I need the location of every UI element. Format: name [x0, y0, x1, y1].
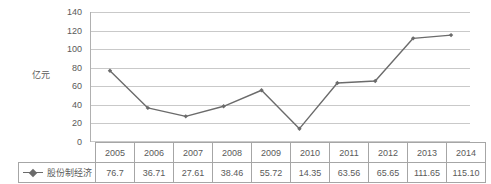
y-axis-tick-60: 60: [72, 82, 82, 91]
table-header-cell-2014: 2014: [447, 143, 486, 163]
table-header-cell-2009: 2009: [252, 143, 291, 163]
plot-area: [90, 12, 470, 142]
series-path: [110, 35, 451, 129]
y-axis-tick-40: 40: [72, 100, 82, 109]
table-value-cell-2009: 55.72: [252, 163, 291, 183]
table-value-cell-2008: 38.46: [213, 163, 252, 183]
table-corner-cell: [19, 143, 96, 163]
table-row: 股份制经济 76.736.7127.6138.4655.7214.3563.56…: [19, 163, 486, 183]
y-axis-tick-80: 80: [72, 63, 82, 72]
table-header-cell-2008: 2008: [213, 143, 252, 163]
y-axis-tick-labels: 140120100806040200: [52, 12, 86, 142]
series-line-股份制经济: [91, 12, 470, 142]
data-point-2008: [221, 104, 225, 108]
table-value-cell-2011: 63.56: [330, 163, 369, 183]
y-axis-tick-20: 20: [72, 119, 82, 128]
series-legend-label: 股份制经济: [47, 166, 92, 179]
line-marker-icon: [23, 168, 43, 177]
table-header-cell-2013: 2013: [408, 143, 447, 163]
y-axis-tick-100: 100: [67, 45, 82, 54]
y-axis-tick-120: 120: [67, 26, 82, 35]
table-header-cell-2006: 2006: [135, 143, 174, 163]
y-axis-tick-140: 140: [67, 8, 82, 17]
table-value-cell-2013: 111.65: [408, 163, 447, 183]
table-header-row: 2005200620072008200920102011201220132014: [19, 143, 486, 163]
data-point-2007: [184, 114, 188, 118]
table-value-cell-2012: 65.65: [369, 163, 408, 183]
table-header-cell-2012: 2012: [369, 143, 408, 163]
table-value-cell-2006: 36.71: [135, 163, 174, 183]
table-value-cell-2005: 76.7: [96, 163, 135, 183]
table-header-cell-2011: 2011: [330, 143, 369, 163]
data-point-2014: [449, 33, 453, 37]
table-header-cell-2010: 2010: [291, 143, 330, 163]
table-value-cell-2014: 115.10: [447, 163, 486, 183]
table-value-cell-2007: 27.61: [174, 163, 213, 183]
data-table: 2005200620072008200920102011201220132014…: [18, 142, 486, 183]
table-header-cell-2005: 2005: [96, 143, 135, 163]
table-value-cell-2010: 14.35: [291, 163, 330, 183]
chart-figure: 亿元 140120100806040200 200520062007200820…: [0, 0, 491, 184]
table-header-cell-2007: 2007: [174, 143, 213, 163]
series-legend-cell: 股份制经济: [19, 163, 96, 183]
